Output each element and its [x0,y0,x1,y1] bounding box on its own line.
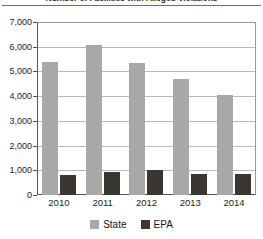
chart-title: Number of Facilities with Alleged Violat… [0,0,263,3]
y-axis-tick-label: 7,000 [0,17,32,27]
y-axis-tick-label: 5,000 [0,66,32,76]
x-axis-tick-label: 2012 [136,197,157,208]
bar-epa-2010 [60,175,76,195]
bar-chart-figure: Number of Facilities with Alleged Violat… [0,0,263,239]
bar-state-2013 [173,79,189,195]
bar-epa-2013 [191,174,207,196]
title-divider [2,5,261,6]
bar-group [37,22,81,195]
legend-swatch-icon [90,220,99,229]
y-axis-tick-label: 3,000 [0,116,32,126]
y-axis-tick-label: 2,000 [0,141,32,151]
x-axis-tick-label: 2014 [224,197,245,208]
y-axis-tick-label: 4,000 [0,91,32,101]
bar-epa-2012 [147,170,163,195]
bar-state-2011 [86,45,102,195]
legend-label: EPA [154,219,173,230]
y-axis-tick-label: 0 [0,190,32,200]
legend-item-epa[interactable]: EPA [141,219,173,230]
x-axis-tick-label: 2013 [180,197,201,208]
y-axis-tick-label: 1,000 [0,165,32,175]
bar-group [125,22,169,195]
legend-swatch-icon [141,220,150,229]
bar-group [81,22,125,195]
bar-group [168,22,212,195]
bar-epa-2014 [235,174,251,195]
bar-state-2014 [217,95,233,195]
bar-epa-2011 [104,172,120,195]
legend-item-state[interactable]: State [90,219,126,230]
x-axis-tick-label: 2011 [92,197,112,208]
legend-label: State [103,219,126,230]
bar-group [212,22,256,195]
bar-state-2010 [42,62,58,195]
bar-state-2012 [129,63,145,195]
y-axis-tick-mark [33,195,37,196]
bars-layer [37,22,256,195]
y-axis-tick-label: 6,000 [0,42,32,52]
x-axis-tick-label: 2010 [48,197,69,208]
chart-legend: StateEPA [0,219,263,230]
